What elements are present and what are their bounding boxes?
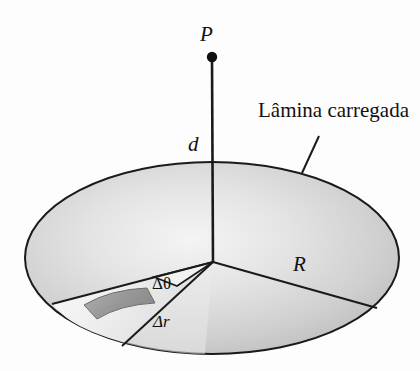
charged-disk-figure: P d R Lâmina carregada Δθ Δr — [0, 0, 420, 371]
distance-d-label: d — [188, 134, 199, 155]
sheet-caption-leader — [302, 136, 319, 173]
figure-canvas — [0, 0, 420, 371]
axis-line — [212, 58, 213, 263]
delta-theta-label: Δθ — [152, 275, 171, 292]
sheet-caption-label: Lâmina carregada — [258, 100, 409, 121]
radius-r-label: R — [293, 254, 306, 275]
point-p-label: P — [200, 24, 213, 45]
delta-r-label: Δr — [153, 313, 170, 330]
point-p-dot — [207, 52, 217, 62]
